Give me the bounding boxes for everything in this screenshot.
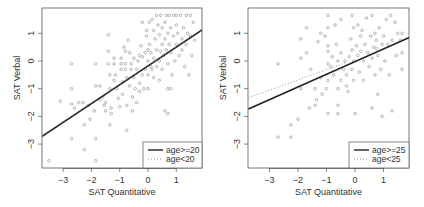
data-point — [152, 29, 155, 32]
data-point — [104, 110, 107, 113]
data-point — [128, 51, 131, 54]
data-point — [339, 51, 342, 54]
data-point — [138, 90, 141, 93]
data-point — [161, 68, 164, 71]
data-point — [135, 68, 138, 71]
data-point — [374, 32, 377, 35]
data-point — [385, 18, 388, 21]
data-point — [131, 110, 134, 113]
data-point — [371, 14, 374, 17]
data-point — [183, 65, 186, 68]
data-point — [362, 60, 365, 63]
data-point — [375, 47, 378, 50]
data-point — [391, 39, 394, 42]
data-point — [113, 62, 116, 65]
data-point — [381, 43, 384, 46]
data-point — [359, 50, 362, 53]
data-point — [396, 32, 399, 35]
data-point — [310, 68, 313, 71]
data-point — [135, 101, 138, 104]
data-point — [172, 35, 175, 38]
data-point — [99, 85, 102, 88]
data-point — [325, 87, 328, 90]
data-point — [104, 101, 107, 104]
data-point — [379, 68, 382, 71]
regression-lines — [248, 37, 410, 109]
chart-figure: −3−2−101−3−2−101SAT QuantitativeSAT Verb… — [0, 0, 424, 207]
data-point — [94, 62, 97, 65]
data-point — [120, 57, 123, 60]
y-tick-label: −2 — [232, 111, 242, 121]
data-point — [351, 49, 354, 52]
data-point — [164, 21, 167, 24]
data-point — [388, 74, 391, 77]
data-point — [107, 50, 110, 53]
x-axis-label: SAT Quantitative — [88, 187, 155, 197]
data-point — [362, 79, 365, 82]
data-point — [148, 21, 151, 24]
data-point — [117, 97, 120, 100]
x-tick-label: −1 — [115, 175, 125, 185]
data-point — [158, 33, 161, 36]
x-tick-label: 0 — [352, 175, 357, 185]
data-point — [125, 104, 128, 107]
data-point — [277, 136, 280, 139]
data-point — [181, 49, 184, 52]
data-point — [182, 26, 185, 29]
data-point — [94, 159, 97, 162]
data-point — [327, 26, 330, 29]
data-point — [300, 87, 303, 90]
data-point — [174, 60, 177, 63]
data-point — [395, 54, 398, 57]
data-point — [365, 17, 368, 20]
regression-line-solid — [248, 37, 410, 109]
data-point — [70, 103, 73, 106]
data-point — [130, 62, 133, 65]
data-point — [144, 51, 147, 54]
data-point — [137, 60, 140, 63]
data-point — [138, 54, 141, 57]
data-point — [151, 18, 154, 21]
data-point — [124, 68, 127, 71]
data-point — [154, 38, 157, 41]
data-point — [352, 79, 355, 82]
data-point — [94, 85, 97, 88]
data-point — [147, 87, 150, 90]
data-point — [179, 14, 182, 17]
data-point — [141, 21, 144, 24]
data-point — [181, 38, 184, 41]
data-point — [332, 74, 335, 77]
data-point — [165, 49, 168, 52]
data-point — [167, 62, 170, 65]
data-point — [110, 112, 113, 115]
data-point — [148, 43, 151, 46]
data-point — [349, 38, 352, 41]
data-point — [161, 26, 164, 29]
data-point — [113, 79, 116, 82]
data-point — [344, 60, 347, 63]
data-point — [152, 57, 155, 60]
data-point — [305, 51, 308, 54]
data-point — [125, 129, 128, 132]
data-point — [364, 43, 367, 46]
data-point — [130, 68, 133, 71]
data-point — [290, 123, 293, 126]
data-point — [134, 87, 137, 90]
data-point — [159, 14, 162, 17]
data-point — [381, 115, 384, 118]
data-point — [186, 32, 189, 35]
scatter-panel-right: −3−2−101−3−2−101SAT QuantitativeSAT Verb… — [218, 8, 411, 197]
data-point — [113, 57, 116, 60]
data-point — [140, 44, 143, 47]
x-tick-label: 0 — [145, 175, 150, 185]
x-tick-label: 1 — [174, 175, 179, 185]
data-point — [321, 93, 324, 96]
data-point — [127, 39, 130, 42]
data-point — [141, 56, 144, 59]
data-point — [339, 79, 342, 82]
y-tick-label: 1 — [232, 31, 242, 36]
y-axis-label: SAT Verbal — [12, 56, 22, 101]
x-tick-label: −2 — [293, 175, 303, 185]
data-point — [391, 110, 394, 113]
data-point — [290, 136, 293, 139]
